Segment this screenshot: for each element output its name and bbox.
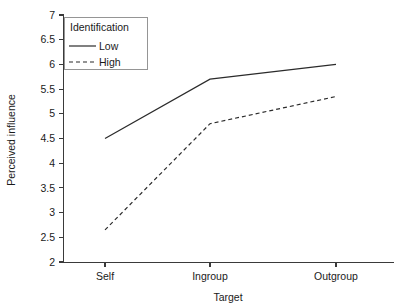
y-tick-label: 6.5 [40,33,55,45]
y-axis-title: Perceived influence [5,94,17,186]
y-tick-label: 4 [49,157,55,169]
y-tick-label: 6 [49,58,55,70]
series-line-low [105,64,336,138]
y-tick-label: 4.5 [40,132,55,144]
y-tick-label: 7 [49,9,55,21]
y-tick-label: 2.5 [40,231,55,243]
x-tick-label: Outgroup [314,270,358,282]
legend-title: Identification [70,21,129,33]
x-tick-label: Self [96,270,114,282]
x-axis-title: Target [213,291,242,303]
series-line-high [105,97,336,230]
line-chart: 2 2.5 3 3.5 4 4.5 5 5.5 6 6.5 7 [0,0,401,307]
y-tick-label: 5 [49,107,55,119]
y-tick-label: 2 [49,256,55,268]
legend-label-high: High [99,56,121,68]
y-axis-ticks: 2 2.5 3 3.5 4 4.5 5 5.5 6 6.5 7 [40,9,63,268]
x-tick-label: Ingroup [192,270,228,282]
chart-figure: 2 2.5 3 3.5 4 4.5 5 5.5 6 6.5 7 [0,0,401,307]
legend: Identification Low High [64,17,147,69]
legend-label-low: Low [99,40,119,52]
y-tick-label: 5.5 [40,83,55,95]
y-tick-label: 3.5 [40,182,55,194]
x-axis-ticks: Self Ingroup Outgroup [96,263,358,283]
y-tick-label: 3 [49,206,55,218]
